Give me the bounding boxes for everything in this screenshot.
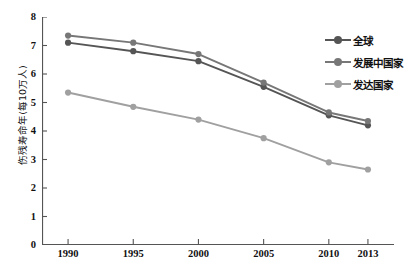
legend-marker-icon — [325, 34, 351, 46]
legend-marker-icon — [325, 56, 351, 68]
x-tick-label: 1990 — [42, 249, 94, 260]
x-tick-label: 2005 — [238, 249, 290, 260]
x-tick-marks — [68, 239, 368, 245]
y-tick-marks — [43, 17, 48, 245]
x-axis-tick-labels: 199019952000200520102013 — [42, 249, 394, 269]
legend-label: 发达国家 — [351, 77, 393, 92]
y-tick-label: 1 — [10, 212, 36, 223]
y-tick-label: 0 — [10, 240, 36, 251]
series-2 — [65, 89, 371, 172]
chart-legend: 全球发展中国家发达国家 — [325, 30, 417, 96]
legend-label: 发展中国家 — [351, 55, 403, 70]
x-tick-label: 2000 — [172, 249, 224, 260]
legend-label: 全球 — [351, 33, 373, 48]
legend-item[interactable]: 全球 — [325, 30, 417, 50]
chart-container: 伤残寿命年(每10万人) 012345678 19901995200020052… — [0, 0, 417, 278]
x-tick-label: 2013 — [342, 249, 394, 260]
y-tick-label: 2 — [10, 183, 36, 194]
y-tick-label: 3 — [10, 155, 36, 166]
y-axis-tick-labels: 012345678 — [8, 17, 36, 245]
legend-item[interactable]: 发展中国家 — [325, 52, 417, 72]
y-tick-label: 4 — [10, 126, 36, 137]
legend-marker-icon — [325, 78, 351, 90]
y-tick-label: 7 — [10, 41, 36, 52]
legend-item[interactable]: 发达国家 — [325, 74, 417, 94]
y-tick-label: 5 — [10, 98, 36, 109]
y-tick-label: 8 — [10, 12, 36, 23]
y-tick-label: 6 — [10, 69, 36, 80]
x-tick-label: 1995 — [107, 249, 159, 260]
